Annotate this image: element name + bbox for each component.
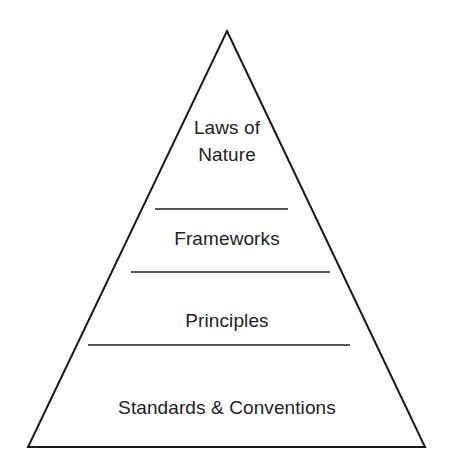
tier-label-frameworks: Frameworks	[130, 226, 324, 252]
tier-label-laws-of-nature: Laws of Nature	[145, 114, 309, 168]
pyramid-diagram-canvas: Laws of Nature Frameworks Principles Sta…	[0, 0, 451, 471]
tier-label-principles: Principles	[130, 308, 324, 334]
tier-label-standards-conventions: Standards & Conventions	[68, 395, 386, 421]
